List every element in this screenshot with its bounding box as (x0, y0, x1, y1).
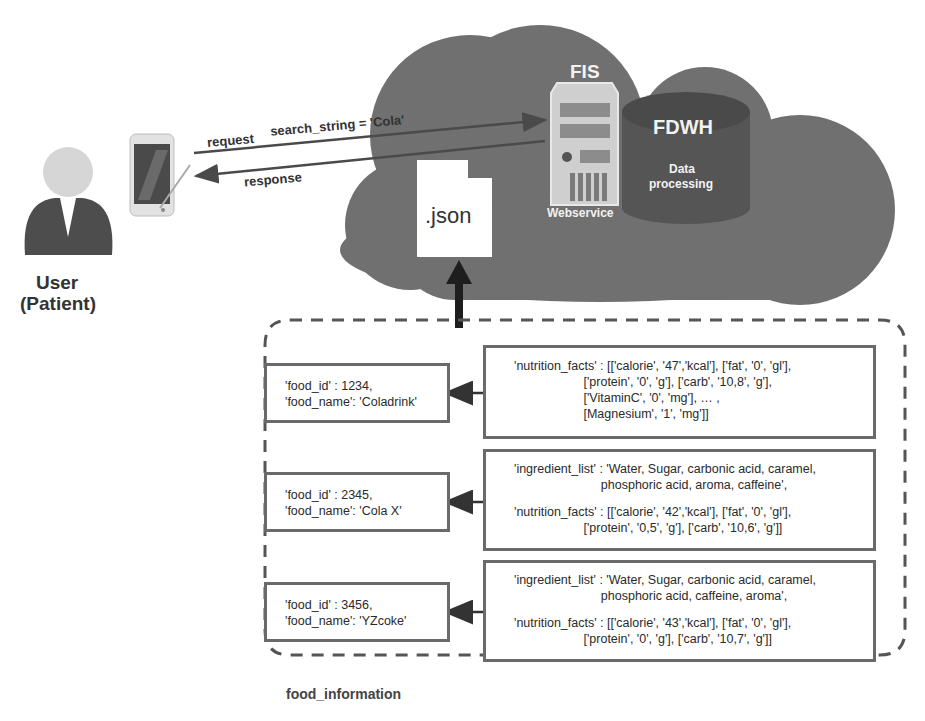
phone-icon (130, 134, 190, 216)
detail-line: ['protein', '0', 'g'], ['carb', '10,8', … (514, 374, 772, 390)
database-title: FDWH (653, 116, 713, 139)
food-id-line: 'food_id' : 1234, (285, 378, 372, 394)
food-name-line: 'food_name': 'Cola X' (285, 503, 402, 519)
food-information-label: food_information (286, 686, 401, 702)
detail-line: 'nutrition_facts' : [['calorie', '47','k… (514, 358, 791, 374)
detail-line: [Magnesium', '1', 'mg']] (514, 406, 709, 422)
food-record-details-box: 'nutrition_facts' : [['calorie', '47','k… (483, 345, 876, 439)
detail-line: 'nutrition_facts' : [['calorie', '42','k… (514, 504, 791, 520)
database-caption-line1: Data (669, 162, 695, 176)
server-icon (551, 83, 618, 205)
detail-line: phosphoric acid, caffeine, aroma', (514, 588, 787, 604)
detail-line: ['protein', '0,5', 'g'], ['carb', '10,6'… (514, 520, 782, 536)
food-record-details-box: 'ingredient_list' : 'Water, Sugar, carbo… (483, 449, 876, 551)
database-icon (622, 92, 750, 224)
food-id-line: 'food_id' : 2345, (285, 487, 372, 503)
user-icon (25, 147, 113, 255)
json-file-label: .json (425, 203, 471, 229)
user-role-label: (Patient) (20, 293, 96, 315)
food-record-id-box: 'food_id' : 2345, 'food_name': 'Cola X' (264, 472, 450, 532)
detail-line: ['VitaminC', '0', 'mg'], … , (514, 390, 720, 406)
server-caption: Webservice (547, 206, 614, 220)
food-record-details-box: 'ingredient_list' : 'Water, Sugar, carbo… (483, 560, 876, 662)
food-name-line: 'food_name': 'Coladrink' (285, 394, 417, 410)
user-label: User (36, 272, 78, 294)
detail-line: 'ingredient_list' : 'Water, Sugar, carbo… (514, 572, 816, 588)
food-name-line: 'food_name': 'YZcoke' (285, 613, 406, 629)
detail-line: 'nutrition_facts' : [['calorie', '43','k… (514, 615, 791, 631)
server-title: FIS (570, 61, 600, 83)
detail-line: phosphoric acid, aroma, caffeine', (514, 477, 787, 493)
detail-line: ['protein', '0', 'g'], ['carb', '10,7', … (514, 631, 772, 647)
food-record-id-box: 'food_id' : 1234, 'food_name': 'Coladrin… (264, 363, 450, 423)
food-id-line: 'food_id' : 3456, (285, 597, 372, 613)
detail-line: 'ingredient_list' : 'Water, Sugar, carbo… (514, 461, 816, 477)
database-caption-line2: processing (649, 177, 713, 191)
food-record-id-box: 'food_id' : 3456, 'food_name': 'YZcoke' (264, 582, 450, 642)
